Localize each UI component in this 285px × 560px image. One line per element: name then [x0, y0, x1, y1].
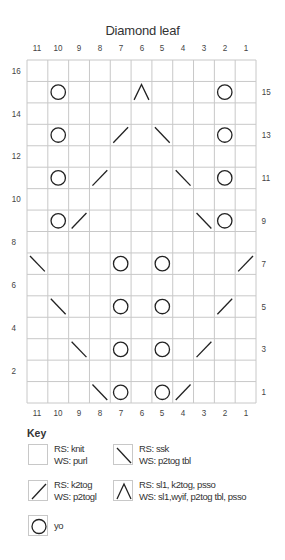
key-yo-text: yo: [54, 520, 63, 532]
blank-square-icon: [29, 445, 49, 466]
circle-icon: [155, 256, 169, 270]
backslash-icon: [155, 127, 170, 142]
key-k2tog-text: RS: k2tog WS: p2togl: [54, 479, 96, 503]
slash-icon: [72, 213, 87, 228]
circle-icon: [113, 385, 127, 399]
slash-icon: [92, 170, 107, 185]
slash-icon: [29, 481, 49, 502]
slash-icon: [197, 342, 212, 357]
backslash-icon: [72, 342, 87, 357]
circle-icon: [155, 299, 169, 313]
key-k2tog-ws: WS: p2togl: [54, 491, 96, 503]
key-sl1-ws: WS: sl1,wyif, p2tog tbl, psso: [139, 491, 246, 503]
key-ssk-rs: RS: ssk: [139, 443, 191, 455]
slash-icon: [217, 299, 232, 314]
key-ssk-text: RS: ssk WS: p2tog tbl: [139, 443, 191, 467]
circle-icon: [218, 214, 232, 228]
key-knit-text: RS: knit WS: purl: [54, 443, 87, 467]
caret-icon: [134, 84, 149, 99]
backslash-icon: [30, 256, 45, 271]
key-ssk-ws: WS: p2tog tbl: [139, 455, 191, 467]
circle-icon: [113, 299, 127, 313]
knitting-chart-grid: [0, 0, 285, 420]
slash-icon: [176, 385, 191, 400]
circle-icon: [51, 128, 65, 142]
key-sl1-rs: RS: sl1, k2tog, psso: [139, 479, 246, 491]
key-knit-ws: WS: purl: [54, 455, 87, 467]
circle-icon: [218, 128, 232, 142]
backslash-icon: [197, 213, 212, 228]
backslash-icon: [92, 385, 107, 400]
key-sl1-k2tog-psso-text: RS: sl1, k2tog, psso WS: sl1,wyif, p2tog…: [139, 479, 246, 503]
circle-icon: [113, 256, 127, 270]
key-yo-label: yo: [54, 520, 63, 532]
circle-icon: [113, 342, 127, 356]
backslash-icon: [51, 299, 66, 314]
circle-icon: [155, 342, 169, 356]
backslash-icon: [176, 170, 191, 185]
key-knit-symbol: [28, 444, 48, 465]
slash-icon: [238, 256, 253, 271]
backslash-icon: [114, 445, 134, 466]
key-k2tog-rs: RS: k2tog: [54, 479, 96, 491]
circle-icon: [29, 516, 49, 537]
key-knit-rs: RS: knit: [54, 443, 87, 455]
slash-icon: [113, 127, 128, 142]
circle-icon: [155, 385, 169, 399]
key-k2tog-symbol: [28, 480, 48, 501]
key-title: Key: [27, 427, 46, 439]
circle-icon: [51, 85, 65, 99]
circle-icon: [51, 171, 65, 185]
key-yo-symbol: [28, 515, 48, 536]
key-ssk-symbol: [113, 444, 133, 465]
caret-icon: [114, 481, 134, 502]
circle-icon: [51, 214, 65, 228]
circle-icon: [218, 171, 232, 185]
key-sl1-k2tog-psso-symbol: [113, 480, 133, 501]
circle-icon: [218, 85, 232, 99]
